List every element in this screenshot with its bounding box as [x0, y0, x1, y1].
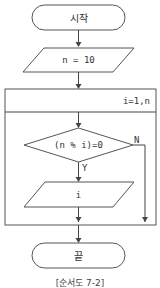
figure-caption: [순서도 7-2] — [56, 278, 105, 288]
input-label: n = 10 — [62, 55, 95, 65]
arrow-input-to-loop — [76, 72, 82, 89]
yes-label: Y — [82, 163, 88, 173]
flowchart: 시작 n = 10 i=1,n (n % i)=0 N Y — [0, 0, 160, 288]
start-label: 시작 — [70, 13, 88, 24]
output-label: i — [76, 190, 81, 200]
end-label: 끝 — [74, 251, 83, 262]
loop-header: i=1,n — [123, 96, 150, 106]
input-parallelogram: n = 10 — [23, 48, 134, 72]
no-label: N — [134, 135, 139, 145]
decision-label: (n % i)=0 — [54, 140, 103, 150]
start-terminal: 시작 — [32, 5, 125, 30]
arrow-loop-to-end — [76, 225, 82, 243]
end-terminal: 끝 — [32, 243, 125, 268]
arrow-start-to-input — [76, 30, 82, 47]
